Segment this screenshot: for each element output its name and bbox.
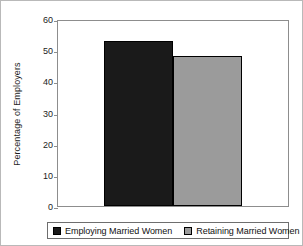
y-axis-tick bbox=[54, 146, 58, 147]
legend-item-retaining: Retaining Married Women bbox=[184, 226, 299, 236]
y-axis-tick bbox=[54, 21, 58, 22]
bar-chart-figure: Percentage of Employers 0102030405060 Em… bbox=[0, 0, 303, 246]
legend-label-retaining: Retaining Married Women bbox=[196, 226, 299, 236]
plot-inner bbox=[58, 21, 288, 206]
y-axis-tick-label: 30 bbox=[31, 109, 53, 119]
legend-item-employing: Employing Married Women bbox=[53, 226, 172, 236]
y-axis-tick-label: 60 bbox=[31, 15, 53, 25]
y-axis-title: Percentage of Employers bbox=[9, 21, 25, 207]
gray-square-swatch-icon bbox=[184, 227, 192, 235]
y-axis-tick bbox=[54, 208, 58, 209]
bar-retaining-married-women bbox=[173, 56, 242, 206]
y-axis-tick-labels: 0102030405060 bbox=[27, 20, 53, 207]
y-axis-tick-label: 40 bbox=[31, 77, 53, 87]
y-axis-tick-label: 10 bbox=[31, 171, 53, 181]
legend-label-employing: Employing Married Women bbox=[65, 226, 172, 236]
y-axis-tick bbox=[54, 52, 58, 53]
y-axis-tick-label: 0 bbox=[31, 202, 53, 212]
plot-area bbox=[57, 20, 289, 207]
chart-legend: Employing Married Women Retaining Marrie… bbox=[47, 222, 289, 239]
y-axis-tick-label: 20 bbox=[31, 140, 53, 150]
y-axis-tick-label: 50 bbox=[31, 46, 53, 56]
y-axis-tick bbox=[54, 83, 58, 84]
black-square-swatch-icon bbox=[53, 227, 61, 235]
y-axis-tick bbox=[54, 177, 58, 178]
bar-employing-married-women bbox=[104, 41, 173, 206]
y-axis-tick bbox=[54, 115, 58, 116]
